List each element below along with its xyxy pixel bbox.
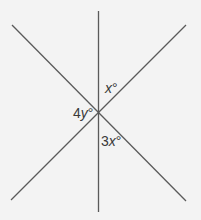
angle-label-x: x° xyxy=(105,81,118,95)
degree-symbol: ° xyxy=(112,80,118,96)
angle-coefficient: 4 xyxy=(73,105,81,121)
intersecting-lines-diagram: x° 4y° 3x° xyxy=(0,0,201,220)
angle-label-4y: 4y° xyxy=(73,106,93,120)
angle-variable: x xyxy=(109,133,116,149)
angle-coefficient: 3 xyxy=(101,133,109,149)
angle-variable: x xyxy=(105,80,112,96)
lines-layer xyxy=(0,0,201,220)
degree-symbol: ° xyxy=(116,133,122,149)
angle-variable: y xyxy=(81,105,88,121)
degree-symbol: ° xyxy=(88,105,94,121)
angle-label-3x: 3x° xyxy=(101,134,121,148)
